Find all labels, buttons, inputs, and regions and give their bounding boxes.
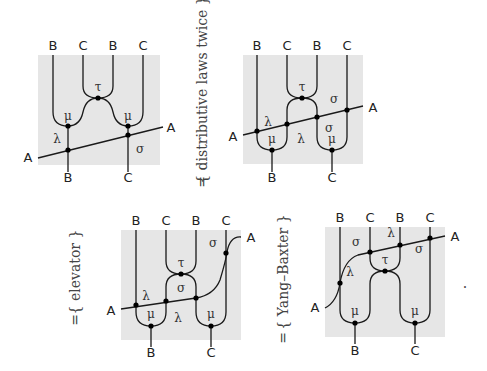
node-mu-left <box>352 320 357 325</box>
bottom-label-c: C <box>206 345 215 360</box>
top-label-c2: C <box>138 38 147 53</box>
top-label-c2: C <box>342 38 351 53</box>
top-label-b1: B <box>336 210 345 225</box>
label-lambda-bottom: λ <box>297 132 305 146</box>
node-tau <box>382 268 387 273</box>
relation-distributive: { distributive laws twice } = <box>194 0 210 188</box>
node-tau <box>178 271 183 276</box>
node-mu-right <box>208 323 213 328</box>
label-lambda: λ <box>53 132 61 146</box>
top-label-b1: B <box>132 213 141 228</box>
panel-3: B C B C σ τ σ λ μ λ μ A A B C <box>107 213 256 360</box>
bottom-label-b: B <box>351 343 360 358</box>
node-tau <box>95 95 100 100</box>
side-label-a-left: A <box>24 150 33 165</box>
panel-2: B C B C τ σ λ μ λ σ μ A A B C <box>229 38 378 185</box>
panel-1: B C B C τ μ μ λ σ A A B C <box>24 38 176 185</box>
node-lambda-1 <box>337 280 342 285</box>
node-lambda-2 <box>284 121 289 126</box>
top-label-b1: B <box>49 38 58 53</box>
node-mu-right <box>412 320 417 325</box>
node-mu-right <box>125 123 130 128</box>
relation-elevator: { elevator } = <box>67 230 83 326</box>
top-label-b2: B <box>396 210 405 225</box>
relation-yang-baxter: { Yang–Baxter } = <box>275 214 291 344</box>
node-sigma-2 <box>223 250 228 255</box>
node-sigma-2 <box>427 235 432 240</box>
label-sigma-middle: σ <box>177 281 185 295</box>
node-tau <box>299 95 304 100</box>
node-sigma-1 <box>314 114 319 119</box>
label-lambda-top: λ <box>387 226 395 240</box>
label-mu-right: μ <box>411 304 419 318</box>
node-sigma-2 <box>344 107 349 112</box>
side-label-a-right: A <box>451 229 460 244</box>
top-label-c1: C <box>161 213 170 228</box>
node-lambda-2 <box>397 242 402 247</box>
equals-sign-2: = <box>67 314 83 326</box>
top-label-b1: B <box>253 38 262 53</box>
top-label-c1: C <box>365 210 374 225</box>
label-lambda-left: λ <box>346 265 354 279</box>
equals-sign-3: = <box>275 332 291 344</box>
label-tau: τ <box>382 253 389 267</box>
top-label-c1: C <box>78 38 87 53</box>
equals-sign-1: = <box>194 176 210 188</box>
bottom-label-c: C <box>123 170 132 185</box>
label-mu-left: μ <box>351 304 359 318</box>
node-lambda-1 <box>133 302 138 307</box>
bottom-label-c: C <box>410 343 419 358</box>
label-mu-left: μ <box>147 307 155 321</box>
justification-elevator: { elevator } <box>67 230 83 315</box>
node-lambda-2 <box>163 298 168 303</box>
side-label-a-left: A <box>229 129 238 144</box>
node-sigma <box>125 132 130 137</box>
label-sigma-top: σ <box>330 92 338 106</box>
node-mu-left <box>148 323 153 328</box>
node-mu-left <box>65 123 70 128</box>
label-sigma-top: σ <box>209 236 217 250</box>
top-label-c2: C <box>221 213 230 228</box>
trailing-period: . <box>463 275 467 291</box>
label-tau: τ <box>178 256 185 270</box>
label-sigma: σ <box>136 142 144 156</box>
top-label-b2: B <box>313 38 322 53</box>
label-sigma-top: σ <box>352 235 360 249</box>
side-label-a-right: A <box>369 100 378 115</box>
side-label-a-right: A <box>167 120 176 135</box>
label-tau: τ <box>299 80 306 94</box>
panel-background <box>325 227 445 337</box>
label-lambda-bottom: λ <box>174 311 182 325</box>
top-label-b2: B <box>109 38 118 53</box>
label-lambda-top: λ <box>264 115 272 129</box>
label-lambda-top: λ <box>142 289 150 303</box>
side-label-a-right: A <box>247 230 256 245</box>
node-lambda <box>65 147 70 152</box>
justification-yang-baxter: { Yang–Baxter } <box>275 214 291 329</box>
panel-4: B C B C σ λ σ τ λ μ μ A A B C <box>311 210 460 358</box>
label-tau: τ <box>95 80 102 94</box>
justification-distributive: { distributive laws twice } <box>194 0 210 184</box>
bottom-label-c: C <box>327 170 336 185</box>
label-mu-right: μ <box>124 109 132 123</box>
label-mu-right: μ <box>207 307 215 321</box>
bottom-label-b: B <box>147 345 156 360</box>
top-label-b2: B <box>192 213 201 228</box>
label-sigma-right: σ <box>415 242 423 256</box>
node-sigma-1 <box>193 295 198 300</box>
node-lambda-1 <box>254 128 259 133</box>
bottom-label-b: B <box>268 170 277 185</box>
bottom-label-b: B <box>64 170 73 185</box>
diagram-canvas: B C B C τ μ μ λ σ A A B C { <box>0 0 487 371</box>
side-label-a-left: A <box>107 303 116 318</box>
label-mu-right: μ <box>328 132 336 146</box>
label-mu-left: μ <box>64 109 72 123</box>
node-mu-left <box>269 147 274 152</box>
label-mu-left: μ <box>268 132 276 146</box>
top-label-c1: C <box>282 38 291 53</box>
node-sigma-1 <box>367 249 372 254</box>
node-mu-right <box>329 147 334 152</box>
top-label-c2: C <box>425 210 434 225</box>
side-label-a-left: A <box>311 300 320 315</box>
